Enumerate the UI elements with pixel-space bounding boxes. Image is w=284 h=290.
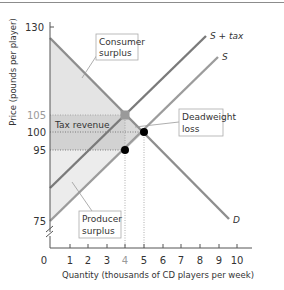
y-tick-label-100: 100 [27,127,46,138]
y-tick-label-105: 105 [27,110,46,121]
tax-equilibrium-point [121,111,130,120]
producer-surplus-label-line2: surplus [82,226,115,236]
chart-canvas: 130 105 100 95 75 0 1 2 3 4 5 6 7 8 9 10… [0,0,284,290]
producer-surplus-label-line1: Producer [82,214,122,224]
deadweight-loss-label-line1: Deadweight [182,112,237,122]
consumer-surplus-leader [82,55,97,78]
deadweight-loss-label-line2: loss [182,124,200,134]
x-tick-label-8: 8 [197,255,203,266]
deadweight-loss-leader [135,122,179,127]
x-tick-label-0: 0 [41,255,47,266]
x-tick-label-5: 5 [141,255,147,266]
y-axis-title: Price (pounds per player) [8,18,18,126]
tax-revenue-label: Tax revenue [54,120,110,130]
x-tick-label-1: 1 [67,255,73,266]
equilibrium-point [140,128,148,136]
supply-plus-tax-label: S + tax [210,31,244,41]
x-ticks [70,244,237,248]
sellers-price-point [121,146,129,154]
x-tick-label-4: 4 [122,255,128,266]
consumer-surplus-label-line2: surplus [99,48,132,58]
x-tick-label-3: 3 [104,255,110,266]
y-tick-label-130: 130 [25,22,44,33]
x-tick-label-6: 6 [160,255,166,266]
consumer-surplus-label-line1: Consumer [99,37,145,47]
supply-label: S [222,52,228,62]
x-tick-label-2: 2 [85,255,91,266]
x-axis-title: Quantity (thousands of CD players per we… [62,270,254,280]
y-tick-label-95: 95 [33,145,46,156]
demand-label: D [233,215,240,225]
x-tick-label-7: 7 [178,255,184,266]
x-tick-label-9: 9 [216,255,222,266]
x-tick-label-10: 10 [231,255,244,266]
y-tick-label-75: 75 [33,216,46,227]
